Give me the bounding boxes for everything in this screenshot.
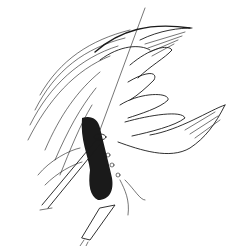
needle-line	[100, 8, 145, 130]
tissue-contours	[28, 30, 130, 185]
surgical-illustration	[0, 0, 238, 246]
tissue-fold	[95, 26, 192, 56]
drain-tube	[80, 205, 115, 246]
cavity	[82, 117, 113, 200]
illustration-canvas	[0, 0, 238, 246]
hand	[100, 47, 225, 154]
